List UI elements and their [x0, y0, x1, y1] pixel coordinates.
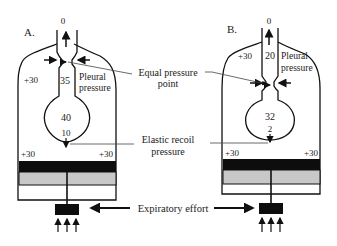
- panel-a-airway-pressure: 35: [60, 75, 70, 86]
- elastic-recoil-label-2: pressure: [151, 146, 185, 157]
- panel-a-pleural-label-2: pressure: [79, 83, 111, 93]
- panel-a-bottom-left-pressure: +30: [21, 149, 36, 159]
- panel-b-elastic-recoil-value: 2: [268, 124, 273, 134]
- panel-b-airway-pressure: 20: [265, 50, 275, 61]
- panel-a-elastic-recoil-value: 10: [62, 128, 72, 138]
- panel-a-airway-opening-pressure: 0: [61, 16, 66, 26]
- panel-b-pleural-label-1: Pleural: [281, 51, 308, 61]
- panel-b-piston-plate: [223, 159, 320, 170]
- panel-a-label: A.: [24, 26, 35, 38]
- panel-a-piston-plate: [19, 161, 116, 172]
- panel-a-effort-block: [55, 204, 79, 215]
- panel-b-chamber-pressure: +30: [238, 51, 253, 61]
- equal-pressure-point-diagram: A. 0 +30 35 Pleural pressure 40 10 +30 +…: [0, 0, 337, 246]
- panel-b-pleural-label-2: pressure: [281, 63, 313, 73]
- equal-pressure-label-2: point: [158, 78, 179, 89]
- panel-a: A. 0 +30 35 Pleural pressure 40 10 +30 +…: [18, 16, 116, 232]
- panel-a-pleural-label-1: Pleural: [79, 72, 106, 82]
- epp-leader-b: [205, 72, 266, 84]
- panel-a-bottom-right-pressure: +30: [99, 149, 114, 159]
- panel-b-effort-block: [259, 203, 283, 214]
- elastic-recoil-label-1: Elastic recoil: [142, 134, 195, 145]
- panel-b-airway-opening-pressure: 0: [267, 16, 272, 26]
- panel-b-alveolar-pressure: 32: [265, 111, 275, 122]
- panel-b: B. 0 +30 20 Pleural pressure 32 2 +30 +3…: [222, 16, 320, 232]
- panel-a-chamber-pressure: +30: [24, 75, 39, 85]
- expiratory-effort-label: Expiratory effort: [138, 203, 209, 214]
- equal-pressure-label-1: Equal pressure: [138, 67, 198, 78]
- panel-a-alveolar-pressure: 40: [61, 112, 71, 123]
- panel-b-label: B.: [227, 23, 237, 35]
- panel-b-bottom-left-pressure: +30: [225, 148, 240, 158]
- panel-b-bottom-right-pressure: +30: [304, 148, 319, 158]
